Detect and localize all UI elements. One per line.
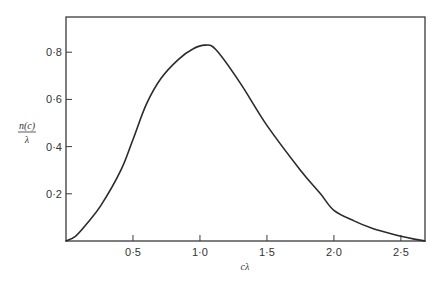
x-tick-label: 2·0 [326, 246, 342, 258]
x-tick-label: 0·5 [125, 246, 141, 258]
distribution-curve [66, 45, 425, 241]
y-axis-label-denominator: λ [24, 134, 30, 145]
y-tick-label: 0·4 [46, 141, 62, 153]
y-tick-label: 0·8 [46, 46, 62, 58]
y-tick-label: 0·6 [46, 93, 62, 105]
y-tick-label: 0·2 [46, 188, 62, 200]
x-axis-ticks: 0·51·01·52·02·5 [125, 235, 409, 258]
distribution-chart: 0·20·40·60·8 0·51·01·52·02·5 cλ n(c) λ [0, 0, 442, 284]
x-tick-label: 1·0 [192, 246, 208, 258]
x-tick-label: 2·5 [393, 246, 409, 258]
plot-border [66, 17, 425, 241]
x-tick-label: 1·5 [259, 246, 275, 258]
y-axis-ticks: 0·20·40·60·8 [46, 46, 72, 200]
y-axis-label-numerator: n(c) [19, 120, 36, 132]
y-axis-label: n(c) λ [18, 120, 36, 145]
plot-frame [66, 17, 425, 241]
x-axis-label: cλ [241, 261, 250, 272]
